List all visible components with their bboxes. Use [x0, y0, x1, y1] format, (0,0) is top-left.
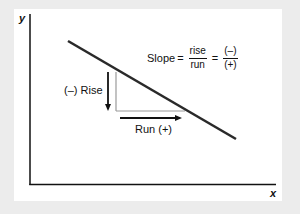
fraction-numerator-rise: rise — [189, 46, 207, 59]
slope-formula: Slope = rise run = (–) (+) — [147, 46, 241, 70]
run-label: Run (+) — [135, 124, 172, 135]
run-arrow-icon — [120, 115, 182, 121]
fraction-numerator-sign: (–) — [223, 46, 237, 59]
sign-fraction: (–) (+) — [223, 46, 238, 70]
y-axis-label: y — [19, 13, 25, 24]
slope-diagram — [0, 0, 300, 214]
rise-over-run-fraction: rise run — [189, 46, 207, 70]
formula-lhs: Slope — [147, 52, 175, 64]
x-axis-label: x — [270, 188, 276, 199]
fraction-denominator-run: run — [189, 59, 205, 71]
rise-label: (–) Rise — [64, 85, 103, 96]
fraction-denominator-sign: (+) — [223, 59, 238, 71]
formula-equals-1: = — [177, 52, 183, 64]
rise-arrow-icon — [105, 72, 111, 111]
formula-equals-2: = — [212, 52, 218, 64]
